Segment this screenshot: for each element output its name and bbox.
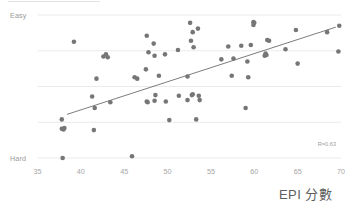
x-axis-tick-label: 50 bbox=[164, 167, 172, 176]
data-point bbox=[135, 76, 140, 81]
data-point bbox=[190, 92, 195, 97]
data-point bbox=[157, 73, 162, 78]
data-point bbox=[153, 93, 158, 98]
data-point bbox=[295, 61, 300, 66]
data-point bbox=[229, 73, 234, 78]
data-point bbox=[59, 117, 64, 122]
data-point bbox=[105, 55, 110, 60]
data-point bbox=[164, 99, 169, 104]
data-point bbox=[191, 45, 196, 50]
x-axis-tick-label: 40 bbox=[77, 167, 85, 176]
data-point bbox=[167, 118, 172, 123]
data-point bbox=[145, 100, 150, 105]
data-point bbox=[252, 21, 257, 26]
data-point bbox=[188, 21, 193, 26]
data-point bbox=[108, 100, 113, 105]
data-point bbox=[144, 33, 149, 38]
x-axis-title: EPI 分數 bbox=[279, 184, 332, 203]
x-axis-tick-label: 55 bbox=[207, 167, 215, 176]
data-point bbox=[176, 48, 181, 53]
x-axis-tick-label: 60 bbox=[250, 167, 258, 176]
data-point bbox=[189, 38, 194, 43]
data-point bbox=[264, 53, 269, 58]
data-point bbox=[196, 93, 201, 98]
data-point bbox=[177, 93, 182, 98]
gridlines-group bbox=[38, 15, 342, 158]
data-point bbox=[94, 76, 99, 81]
data-point bbox=[152, 99, 157, 104]
data-point bbox=[294, 28, 299, 33]
data-point bbox=[163, 52, 168, 57]
data-point bbox=[336, 49, 341, 54]
data-point bbox=[337, 23, 342, 28]
x-axis-tick-label: 70 bbox=[337, 167, 345, 176]
data-point bbox=[267, 38, 272, 43]
data-point bbox=[72, 40, 77, 45]
data-point bbox=[325, 30, 330, 35]
data-point bbox=[190, 30, 195, 35]
data-point bbox=[246, 75, 251, 80]
data-point bbox=[144, 67, 149, 72]
data-points-group bbox=[59, 20, 341, 160]
data-point bbox=[90, 94, 95, 99]
data-point bbox=[239, 43, 244, 48]
data-point bbox=[231, 56, 236, 61]
data-point bbox=[194, 117, 199, 122]
x-axis-tick-label: 35 bbox=[34, 167, 42, 176]
data-point bbox=[185, 98, 190, 103]
data-point bbox=[92, 106, 97, 111]
data-point bbox=[249, 43, 254, 48]
data-point bbox=[196, 26, 201, 31]
data-point bbox=[243, 106, 248, 111]
data-point bbox=[197, 98, 202, 103]
data-point bbox=[245, 59, 250, 64]
x-axis-tick-label: 45 bbox=[120, 167, 128, 176]
data-point bbox=[130, 154, 135, 159]
data-point bbox=[152, 53, 157, 58]
data-point bbox=[146, 50, 151, 55]
data-point bbox=[226, 44, 231, 49]
data-point bbox=[219, 57, 224, 62]
data-point bbox=[62, 126, 67, 131]
correlation-annotation: R=0.63 bbox=[318, 141, 336, 147]
data-point bbox=[92, 128, 97, 133]
data-point bbox=[60, 156, 65, 161]
data-point bbox=[185, 74, 190, 79]
data-point bbox=[151, 41, 156, 46]
data-point bbox=[283, 47, 288, 52]
x-axis-tick-label: 65 bbox=[294, 167, 302, 176]
